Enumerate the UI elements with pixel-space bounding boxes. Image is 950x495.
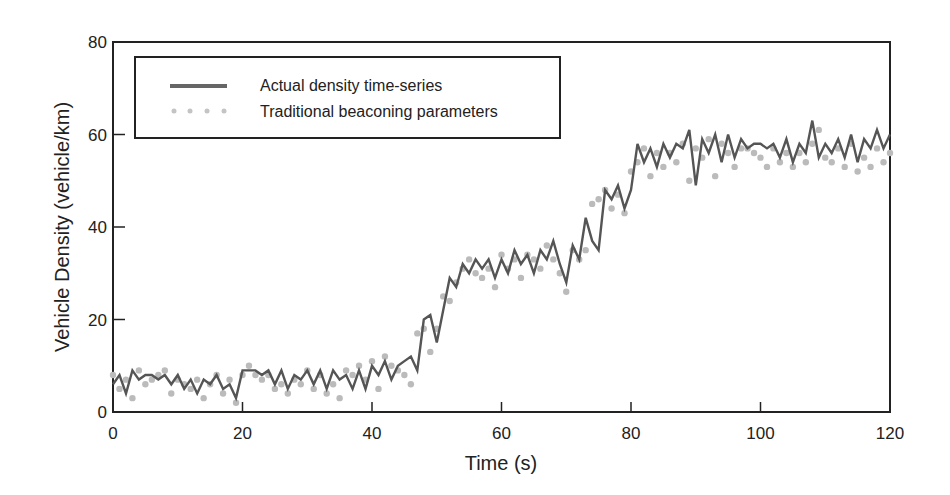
data-point (880, 159, 886, 165)
data-point (336, 395, 342, 401)
data-point (803, 159, 809, 165)
data-point (647, 173, 653, 179)
data-point (686, 178, 692, 184)
data-point (809, 141, 815, 147)
data-point (142, 381, 148, 387)
data-point (375, 386, 381, 392)
data-point (518, 275, 524, 281)
data-point (408, 381, 414, 387)
data-point (466, 256, 472, 262)
data-point (330, 381, 336, 387)
data-point (401, 372, 407, 378)
data-point (246, 363, 252, 369)
data-point (544, 242, 550, 248)
data-point (595, 196, 601, 202)
data-point (867, 164, 873, 170)
data-point (693, 145, 699, 151)
data-point (829, 159, 835, 165)
data-point (589, 201, 595, 207)
data-point (162, 367, 168, 373)
x-tick-label: 80 (622, 424, 641, 443)
y-axis-title: Vehicle Density (vehicle/km) (51, 102, 73, 352)
actual-density-line (113, 121, 890, 399)
data-point (427, 349, 433, 355)
data-point (200, 395, 206, 401)
legend: Actual density time-series Traditional b… (135, 57, 560, 138)
data-point (479, 275, 485, 281)
data-point (582, 247, 588, 253)
data-point (563, 289, 569, 295)
legend-label-actual: Actual density time-series (260, 77, 442, 94)
x-tick-label: 40 (363, 424, 382, 443)
data-point (349, 372, 355, 378)
data-point (854, 168, 860, 174)
data-point (731, 164, 737, 170)
data-point (816, 127, 822, 133)
data-point (388, 363, 394, 369)
y-tick-label: 40 (88, 218, 107, 237)
x-tick-label: 20 (233, 424, 252, 443)
data-point (414, 330, 420, 336)
data-point (259, 376, 265, 382)
y-axis-ticks: 020406080 (88, 33, 125, 422)
data-point (343, 367, 349, 373)
data-point (226, 376, 232, 382)
x-tick-label: 120 (876, 424, 904, 443)
series-actual-density (113, 121, 890, 399)
data-point (861, 154, 867, 160)
data-point (608, 205, 614, 211)
data-point (550, 256, 556, 262)
data-point (706, 136, 712, 142)
y-tick-label: 0 (98, 403, 107, 422)
series-traditional-beaconing (110, 127, 893, 406)
data-point (673, 159, 679, 165)
data-point (472, 270, 478, 276)
y-tick-label: 60 (88, 126, 107, 145)
data-point (278, 381, 284, 387)
data-point (537, 265, 543, 271)
data-point (757, 154, 763, 160)
data-point (712, 173, 718, 179)
data-point (718, 141, 724, 147)
x-tick-label: 0 (108, 424, 117, 443)
data-point (874, 145, 880, 151)
data-point (129, 395, 135, 401)
chart: 020406080100120 020406080 Time (s) Vehic… (0, 0, 950, 495)
data-point (660, 164, 666, 170)
x-tick-label: 100 (746, 424, 774, 443)
data-point (298, 381, 304, 387)
data-point (887, 150, 893, 156)
data-point (168, 390, 174, 396)
data-point (369, 358, 375, 364)
data-point (110, 372, 116, 378)
data-point (641, 145, 647, 151)
data-point (764, 164, 770, 170)
x-axis-ticks: 020406080100120 (108, 402, 904, 443)
data-point (220, 390, 226, 396)
data-point (447, 298, 453, 304)
data-point (725, 150, 731, 156)
data-point (822, 154, 828, 160)
x-tick-label: 60 (492, 424, 511, 443)
legend-label-traditional: Traditional beaconing parameters (260, 103, 498, 120)
legend-box (135, 57, 560, 138)
data-point (751, 150, 757, 156)
data-point (492, 284, 498, 290)
y-tick-label: 20 (88, 311, 107, 330)
y-tick-label: 80 (88, 33, 107, 52)
data-point (194, 376, 200, 382)
data-point (841, 164, 847, 170)
x-axis-title: Time (s) (465, 452, 538, 474)
data-point (116, 386, 122, 392)
data-point (136, 367, 142, 373)
